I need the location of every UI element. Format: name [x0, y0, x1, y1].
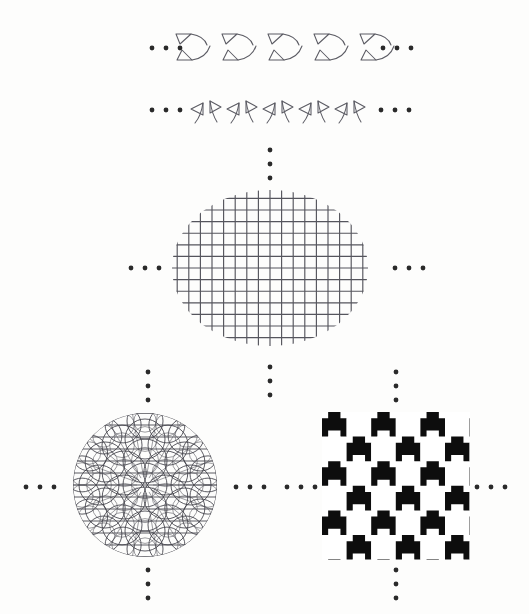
ellipsis-dot — [394, 596, 399, 601]
ellipsis-dot — [268, 148, 273, 153]
ellipsis-dot — [146, 596, 151, 601]
ellipsis-dot — [178, 46, 183, 51]
ellipsis-dot — [164, 46, 169, 51]
ellipsis-dot — [150, 46, 155, 51]
ellipsis-dot — [313, 485, 318, 490]
ellipsis-dot — [285, 485, 290, 490]
interlocking-tile-tessellation — [297, 387, 494, 584]
ellipsis-dot — [489, 485, 494, 490]
ellipsis-dot — [143, 266, 148, 271]
ellipsis-dot — [395, 46, 400, 51]
ellipsis-dot — [24, 485, 29, 490]
ellipsis-dot — [407, 108, 412, 113]
ellipsis-dot — [157, 266, 162, 271]
ellipsis-dot — [394, 398, 399, 403]
ellipsis-dot — [146, 384, 151, 389]
ellipsis-dot — [164, 108, 169, 113]
symmetry-patterns-figure — [0, 0, 529, 614]
ellipsis-dot — [393, 266, 398, 271]
ellipsis-dot — [407, 266, 412, 271]
ellipsis-dot — [146, 398, 151, 403]
ellipsis-dot — [503, 485, 508, 490]
ellipsis-dot — [234, 485, 239, 490]
ellipsis-dot — [178, 108, 183, 113]
ellipsis-dot — [52, 485, 57, 490]
ellipsis-dot — [394, 568, 399, 573]
ellipsis-dot — [268, 379, 273, 384]
ellipsis-dot — [268, 176, 273, 181]
ellipsis-dot — [38, 485, 43, 490]
ellipsis-dot — [299, 485, 304, 490]
ellipsis-dot — [146, 582, 151, 587]
ellipsis-dot — [394, 370, 399, 375]
ellipsis-dot — [150, 108, 155, 113]
ellipsis-dot — [409, 46, 414, 51]
ellipsis-dot — [268, 393, 273, 398]
ellipsis-dot — [394, 384, 399, 389]
ellipsis-dot — [146, 568, 151, 573]
ellipsis-dot — [248, 485, 253, 490]
ellipsis-dot — [421, 266, 426, 271]
ellipsis-dot — [268, 365, 273, 370]
ellipsis-dot — [381, 46, 386, 51]
ellipsis-dot — [129, 266, 134, 271]
ellipsis-dot — [268, 162, 273, 167]
ellipsis-dot — [262, 485, 267, 490]
ellipsis-dot — [146, 370, 151, 375]
ellipsis-dot — [393, 108, 398, 113]
ellipsis-dot — [379, 108, 384, 113]
ellipsis-dot — [394, 582, 399, 587]
ellipsis-dot — [475, 485, 480, 490]
